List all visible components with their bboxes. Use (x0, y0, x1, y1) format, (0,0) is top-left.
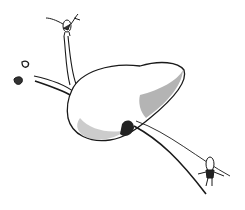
small-blobs (14, 61, 29, 84)
liver-drawing (0, 0, 245, 210)
upper-duct (34, 36, 76, 96)
lower-duct (134, 121, 230, 194)
sketch-illustration (0, 0, 245, 210)
liver-shape (67, 63, 184, 141)
bottom-figure (198, 157, 224, 186)
top-figure (46, 14, 80, 36)
